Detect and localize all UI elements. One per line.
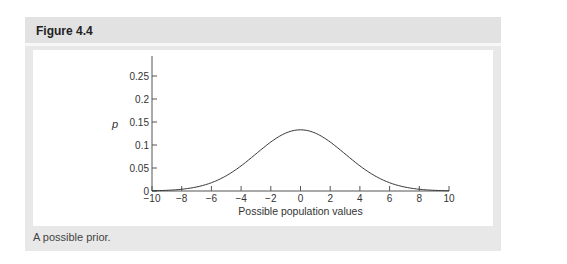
x-tick-label: 0 (298, 193, 304, 204)
y-tick-label: 0.25 (130, 71, 150, 82)
x-tick-label: −10 (144, 193, 161, 204)
prior-curve (152, 130, 449, 191)
plot-area: 00.050.10.150.20.25−10−8−6−4−20246810Pos… (33, 50, 493, 226)
x-tick-label: 4 (357, 193, 363, 204)
x-tick-label: −6 (206, 193, 218, 204)
x-tick-label: −2 (265, 193, 277, 204)
header-divider (25, 43, 501, 46)
x-tick-label: 10 (443, 193, 455, 204)
figure-header: Figure 4.4 (25, 17, 501, 43)
x-tick-label: −4 (235, 193, 247, 204)
figure-panel: Figure 4.4 00.050.10.150.20.25−10−8−6−4−… (25, 17, 501, 251)
x-tick-label: 2 (327, 193, 333, 204)
y-tick-label: 0.05 (130, 163, 150, 174)
y-tick-label: 0.1 (135, 140, 149, 151)
figure-title: Figure 4.4 (36, 24, 93, 38)
normal-prior-chart: 00.050.10.150.20.25−10−8−6−4−20246810Pos… (33, 50, 493, 226)
figure-caption: A possible prior. (33, 231, 111, 243)
y-tick-label: 0.15 (130, 117, 150, 128)
x-tick-label: 6 (387, 193, 393, 204)
x-axis-label: Possible population values (238, 205, 362, 217)
x-tick-label: −8 (176, 193, 188, 204)
y-axis-label: p (111, 118, 118, 130)
y-tick-label: 0.2 (135, 94, 149, 105)
x-tick-label: 8 (417, 193, 423, 204)
